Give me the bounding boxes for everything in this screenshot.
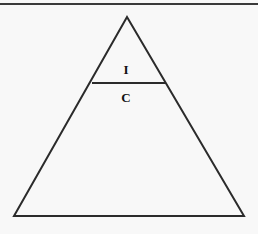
tier-label-i: I: [123, 63, 128, 76]
triangle-diagram-svg: [0, 0, 258, 234]
outer-triangle: [14, 17, 244, 216]
figure-container: I C: [0, 0, 258, 234]
tier-label-c: C: [121, 91, 130, 104]
